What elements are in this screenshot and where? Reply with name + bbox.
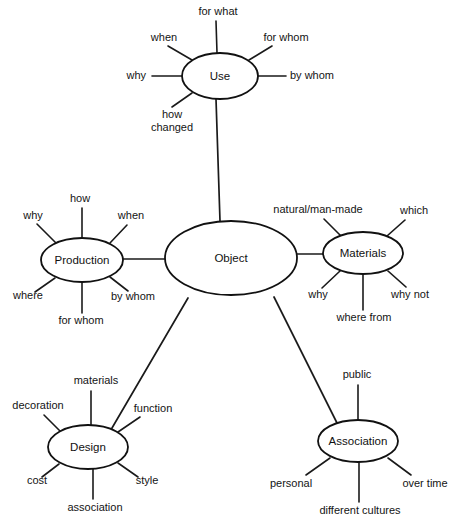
leaf-label-production-where: where [12, 289, 43, 301]
node-label-use: Use [210, 70, 230, 82]
mindmap-diagram: UseProductionMaterialsDesignAssociationO… [0, 0, 450, 527]
leaf-label-design-style: style [136, 474, 159, 486]
node-label-design: Design [70, 441, 106, 453]
leaf-label-association-public: public [343, 368, 372, 380]
leaf-label-production-by-whom: by whom [111, 290, 155, 302]
spoke-edge-association-over-time [388, 458, 411, 475]
leaf-label-use-why: why [125, 69, 146, 81]
mindmap-canvas: UseProductionMaterialsDesignAssociationO… [0, 0, 450, 527]
spoke-edge-materials-why-not [388, 271, 406, 287]
leaf-label-materials-natural-man-made: natural/man-made [273, 203, 362, 215]
spoke-edge-design-decoration [44, 415, 60, 431]
spoke-edge-design-function [118, 417, 140, 432]
leaf-label-production-for-whom: for whom [58, 314, 103, 326]
trunk-edge-object-association [274, 297, 337, 423]
leaf-label-materials-why: why [307, 288, 328, 300]
spoke-edge-materials-why [322, 271, 340, 288]
leaf-label-use-for-what: for what [198, 5, 237, 17]
spoke-edge-use-how [172, 93, 192, 107]
spoke-edge-production-by-whom [110, 277, 128, 291]
node-label-production: Production [55, 254, 110, 266]
node-label-association: Association [329, 435, 388, 447]
node-association[interactable]: Association [318, 420, 398, 462]
leaf-label-use-how: how [162, 108, 182, 120]
leaf-label-materials-where-from: where from [335, 311, 391, 323]
leaf-label-design-association: association [67, 501, 122, 513]
node-materials[interactable]: Materials [323, 232, 403, 274]
spoke-edge-materials-natural-man-made [324, 219, 341, 236]
leaf-label-production-when: when [117, 209, 144, 221]
node-label-object: Object [214, 252, 248, 264]
spoke-edge-use-for-what [216, 21, 217, 53]
leaf-label-materials-why-not: why not [390, 288, 429, 300]
leaf-label-design-materials: materials [74, 374, 119, 386]
node-label-materials: Materials [340, 247, 387, 259]
node-object[interactable]: Object [165, 221, 297, 295]
spoke-edge-materials-which [387, 220, 405, 236]
spoke-edge-production-when [110, 225, 127, 243]
leaf-label-production-how: how [70, 192, 90, 204]
node-production[interactable]: Production [41, 238, 123, 282]
spoke-edge-use-for-whom [249, 46, 272, 60]
leaf-label-use-when: when [150, 31, 177, 43]
leaf-label-use-by-whom: by whom [290, 69, 334, 81]
leaf-label-design-decoration: decoration [12, 399, 63, 411]
leaf-label-association-different-cultures: different cultures [319, 504, 401, 516]
node-design[interactable]: Design [48, 425, 128, 469]
nodes-layer: UseProductionMaterialsDesignAssociationO… [41, 53, 403, 469]
spoke-edge-use-when [168, 46, 192, 60]
leaf-label-design-function: function [134, 402, 173, 414]
leaf-label-use-changed: changed [151, 121, 193, 133]
leaf-label-association-personal: personal [270, 477, 312, 489]
node-use[interactable]: Use [182, 53, 258, 99]
leaf-label-design-cost: cost [27, 474, 47, 486]
leaf-label-production-why: why [22, 209, 43, 221]
spoke-edge-production-why [37, 224, 56, 243]
leaf-label-use-for-whom: for whom [263, 31, 308, 43]
trunk-edge-object-use [216, 99, 220, 221]
spoke-edge-association-personal [306, 458, 330, 475]
leaf-label-association-over-time: over time [402, 477, 447, 489]
leaf-label-materials-which: which [399, 204, 428, 216]
